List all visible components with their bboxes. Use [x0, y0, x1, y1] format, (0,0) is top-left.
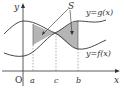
curve-g-label: y=g(x)	[85, 8, 113, 17]
x-axis-label: x	[114, 75, 119, 85]
curve-f	[4, 21, 106, 49]
tick-b-label: b	[76, 76, 81, 85]
tick-a-label: a	[30, 76, 35, 85]
curve-f-label: y=f(x)	[85, 49, 111, 58]
x-axis-arrow-icon	[115, 69, 120, 73]
tick-c-label: c	[54, 76, 59, 85]
area-between-curves-diagram: y x O a c b S y=g(x) y=f(x)	[0, 0, 124, 89]
y-axis-arrow-icon	[21, 3, 25, 8]
region-s-label: S	[68, 1, 74, 11]
origin-label: O	[15, 75, 22, 85]
y-axis-label: y	[13, 2, 20, 12]
